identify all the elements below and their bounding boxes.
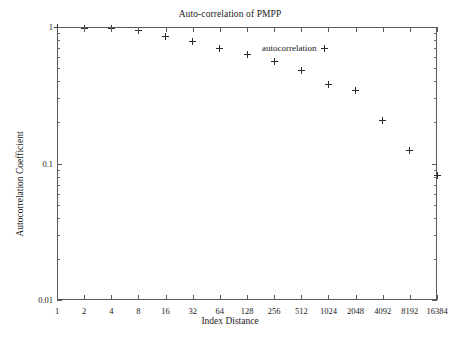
x-tick-top: [328, 27, 329, 32]
y-tick-minor-right: [434, 205, 437, 206]
y-tick-minor-right: [434, 177, 437, 178]
x-tick-label: 4092: [374, 306, 391, 316]
y-tick-minor-right: [434, 68, 437, 69]
y-tick-minor-right: [434, 185, 437, 186]
x-tick-label: 256: [268, 306, 281, 316]
x-tick-top: [84, 27, 85, 32]
y-tick-minor-right: [434, 218, 437, 219]
x-tick-top: [356, 27, 357, 32]
y-tick: [57, 164, 62, 165]
chart-title: Auto-correlation of PMPP: [0, 9, 460, 19]
y-tick-minor: [57, 194, 60, 195]
y-tick-minor-right: [434, 48, 437, 49]
y-tick-minor: [57, 205, 60, 206]
legend: autocorrelation: [262, 41, 328, 55]
x-tick-label: 1: [55, 306, 59, 316]
x-tick-top: [111, 27, 112, 32]
x-tick-top: [383, 27, 384, 32]
y-tick-minor-right: [434, 170, 437, 171]
y-tick-minor: [57, 185, 60, 186]
y-tick-minor: [57, 122, 60, 123]
y-tick-minor-right: [434, 40, 437, 41]
x-tick-top: [410, 27, 411, 32]
y-tick-label: 0.1: [42, 159, 53, 169]
y-axis-title: Autocorrelation Coefficient: [15, 69, 25, 299]
y-tick-minor: [57, 57, 60, 58]
x-tick-label: 4: [109, 306, 113, 316]
y-tick-minor-right: [434, 33, 437, 34]
x-tick-top: [193, 27, 194, 32]
y-tick-minor: [57, 40, 60, 41]
x-tick-label: 2048: [347, 306, 364, 316]
y-tick-minor-right: [434, 259, 437, 260]
y-tick-minor: [57, 177, 60, 178]
x-tick-label: 2: [82, 306, 86, 316]
y-tick-minor: [57, 33, 60, 34]
x-tick-label: 32: [188, 306, 197, 316]
y-tick: [57, 27, 62, 28]
y-tick-minor-right: [434, 235, 437, 236]
y-tick-minor-right: [434, 122, 437, 123]
x-tick-label: 16: [161, 306, 170, 316]
x-tick-label: 512: [295, 306, 308, 316]
x-tick-label: 16384: [426, 306, 447, 316]
y-tick-minor: [57, 48, 60, 49]
y-tick-minor-right: [434, 57, 437, 58]
x-tick-top: [138, 27, 139, 32]
y-tick-minor-right: [434, 81, 437, 82]
plot-frame: [57, 27, 437, 300]
x-tick-top: [274, 27, 275, 32]
x-tick-top: [301, 27, 302, 32]
x-tick-label: 8: [136, 306, 140, 316]
x-tick-label: 64: [216, 306, 225, 316]
y-tick-minor: [57, 259, 60, 260]
y-tick-minor: [57, 218, 60, 219]
y-tick-minor-right: [434, 194, 437, 195]
x-tick: [437, 295, 438, 300]
x-tick-label: 8192: [401, 306, 418, 316]
y-tick-minor: [57, 170, 60, 171]
y-tick-right: [432, 27, 437, 28]
x-tick-top: [166, 27, 167, 32]
y-tick-minor: [57, 68, 60, 69]
x-tick-top: [247, 27, 248, 32]
y-tick-minor: [57, 81, 60, 82]
y-tick-minor: [57, 98, 60, 99]
x-tick-label: 1024: [320, 306, 337, 316]
x-axis-title: Index Distance: [0, 316, 460, 326]
y-tick-right: [432, 164, 437, 165]
y-tick-label: 1: [49, 22, 53, 32]
y-tick-label: 0.01: [38, 295, 53, 305]
x-tick-top: [437, 27, 438, 32]
y-tick-minor-right: [434, 98, 437, 99]
x-tick-label: 128: [241, 306, 254, 316]
legend-label-autocorrelation: autocorrelation: [262, 43, 316, 53]
y-tick-minor: [57, 235, 60, 236]
x-tick-top: [220, 27, 221, 32]
plot-area: [57, 27, 437, 300]
legend-marker-plus-icon: [321, 45, 328, 52]
chart-figure: Auto-correlation of PMPP Autocorrelation…: [0, 0, 460, 340]
